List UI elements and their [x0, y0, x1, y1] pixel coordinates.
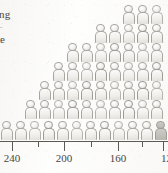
- person-body-icon: [57, 128, 69, 140]
- person-icon: [140, 120, 154, 140]
- person-icon: [122, 80, 136, 100]
- person-icon: [122, 99, 136, 119]
- person-icon: [42, 120, 56, 140]
- person-icon: [66, 80, 80, 100]
- pictogram-row: [0, 120, 168, 140]
- person-body-icon: [113, 128, 125, 140]
- person-icon: [56, 120, 70, 140]
- x-axis-tick-minor: [142, 142, 143, 147]
- person-icon: [98, 120, 112, 140]
- x-axis-tick-label: 160: [110, 152, 127, 164]
- person-body-icon: [1, 128, 13, 140]
- person-icon: [94, 42, 108, 62]
- person-body-icon: [109, 107, 121, 119]
- person-body-icon: [29, 128, 41, 140]
- person-icon: [136, 4, 150, 24]
- pictogram-row: [24, 99, 164, 119]
- person-icon: [108, 99, 122, 119]
- person-icon: [80, 80, 94, 100]
- person-icon: [108, 42, 122, 62]
- person-icon: [136, 61, 150, 81]
- x-axis-tick-major: [12, 142, 13, 151]
- person-icon: [154, 120, 168, 140]
- person-icon: [52, 99, 66, 119]
- person-icon: [108, 61, 122, 81]
- person-icon: [52, 80, 66, 100]
- x-axis: 24020016012: [0, 141, 168, 173]
- pictogram-row: [52, 61, 164, 81]
- person-icon: [38, 80, 52, 100]
- person-icon: [150, 61, 164, 81]
- person-icon: [136, 23, 150, 43]
- person-body-icon: [39, 107, 51, 119]
- person-body-icon: [137, 107, 149, 119]
- person-icon: [136, 42, 150, 62]
- x-axis-tick-minor: [38, 142, 39, 147]
- person-icon: [108, 80, 122, 100]
- pictogram-figure: ng - e 24020016012: [0, 0, 168, 173]
- person-icon: [84, 120, 98, 140]
- person-body-icon: [85, 128, 97, 140]
- person-icon: [0, 120, 14, 140]
- person-body-icon: [155, 128, 167, 140]
- person-body-icon: [123, 107, 135, 119]
- person-icon: [150, 99, 164, 119]
- person-icon: [126, 120, 140, 140]
- x-axis-tick-label: 240: [4, 152, 21, 164]
- person-body-icon: [71, 128, 83, 140]
- person-icon: [122, 23, 136, 43]
- person-icon: [150, 4, 164, 24]
- x-axis-tick-label: 200: [56, 152, 73, 164]
- person-icon: [136, 80, 150, 100]
- person-icon: [66, 42, 80, 62]
- x-axis-tick-label: 12: [161, 152, 168, 164]
- x-axis-tick-major: [163, 142, 164, 151]
- person-body-icon: [127, 128, 139, 140]
- person-icon: [52, 61, 66, 81]
- person-icon: [150, 80, 164, 100]
- person-icon: [136, 99, 150, 119]
- person-body-icon: [95, 107, 107, 119]
- person-icon: [70, 120, 84, 140]
- person-body-icon: [99, 128, 111, 140]
- person-icon: [122, 61, 136, 81]
- person-icon: [24, 99, 38, 119]
- x-axis-tick-major: [118, 142, 119, 151]
- person-icon: [14, 120, 28, 140]
- pictogram-row: [122, 4, 164, 24]
- person-icon: [94, 23, 108, 43]
- person-icon: [66, 99, 80, 119]
- x-axis-tick-major: [64, 142, 65, 151]
- person-icon: [112, 120, 126, 140]
- person-icon: [80, 61, 94, 81]
- pictogram-row: [94, 23, 164, 43]
- x-axis-tick-minor: [91, 142, 92, 147]
- person-body-icon: [15, 128, 27, 140]
- person-icon: [80, 42, 94, 62]
- person-icon: [28, 120, 42, 140]
- person-icon: [108, 23, 122, 43]
- person-icon: [122, 4, 136, 24]
- person-icon: [94, 61, 108, 81]
- person-body-icon: [53, 107, 65, 119]
- pictogram-plot-area: [0, 0, 168, 142]
- person-icon: [150, 42, 164, 62]
- person-body-icon: [25, 107, 37, 119]
- person-icon: [150, 23, 164, 43]
- person-icon: [66, 61, 80, 81]
- pictogram-row: [66, 42, 164, 62]
- person-body-icon: [81, 107, 93, 119]
- person-body-icon: [43, 128, 55, 140]
- person-body-icon: [151, 107, 163, 119]
- person-icon: [38, 99, 52, 119]
- person-body-icon: [67, 107, 79, 119]
- person-icon: [94, 99, 108, 119]
- person-body-icon: [141, 128, 153, 140]
- person-icon: [80, 99, 94, 119]
- person-icon: [122, 42, 136, 62]
- pictogram-row: [38, 80, 164, 100]
- person-icon: [94, 80, 108, 100]
